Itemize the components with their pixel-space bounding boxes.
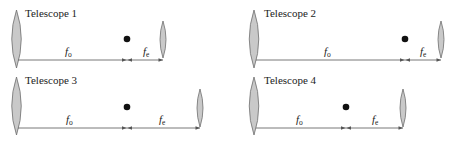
eyepiece-focal-length-label: fe xyxy=(420,45,427,59)
eyepiece-focal-length-label: fe xyxy=(372,113,379,127)
objective-focal-length-label: fo xyxy=(65,45,72,59)
axis-end-arrowhead-icon xyxy=(437,58,442,61)
objective-focal-arrowhead-icon xyxy=(122,58,127,61)
axis-end-arrowhead-icon xyxy=(399,126,404,129)
telescope-2-panel: Telescope 2 fo fe xyxy=(249,7,444,68)
objective-focal-length-label: fo xyxy=(296,113,303,127)
objective-focal-arrowhead-icon xyxy=(341,126,346,129)
eyepiece-focal-arrowhead-icon xyxy=(406,58,411,61)
eyepiece-focal-arrowhead-icon xyxy=(128,58,133,61)
eyepiece-focal-length-label: fe xyxy=(143,45,150,59)
telescope-1-panel: Telescope 1 fo fe xyxy=(12,7,166,68)
telescope-3-panel: Telescope 3 fo fe xyxy=(12,74,203,135)
telescope-3-title: Telescope 3 xyxy=(25,74,78,86)
objective-focal-length-label: fo xyxy=(324,45,331,59)
eyepiece-focal-arrowhead-icon xyxy=(128,126,133,129)
focal-point-icon xyxy=(124,104,131,111)
objective-lens-icon xyxy=(12,77,22,135)
objective-lens-icon xyxy=(249,10,259,68)
eyepiece-lens-icon xyxy=(160,21,166,58)
telescope-diagram: Telescope 1 fo fe Telescope 2 fo fe Tele… xyxy=(0,0,450,143)
focal-point-icon xyxy=(402,36,409,43)
telescope-2-title: Telescope 2 xyxy=(264,7,316,19)
eyepiece-lens-icon xyxy=(197,89,203,127)
focal-point-icon xyxy=(124,36,131,43)
objective-focal-arrowhead-icon xyxy=(122,126,127,129)
eyepiece-focal-arrowhead-icon xyxy=(347,126,352,129)
objective-focal-arrowhead-icon xyxy=(400,58,405,61)
focal-point-icon xyxy=(343,104,350,111)
eyepiece-lens-icon xyxy=(438,21,444,58)
axis-end-arrowhead-icon xyxy=(196,126,201,129)
objective-lens-icon xyxy=(249,77,259,135)
telescope-4-title: Telescope 4 xyxy=(264,74,317,86)
objective-focal-length-label: fo xyxy=(66,113,73,127)
telescope-4-panel: Telescope 4 fo fe xyxy=(249,74,406,135)
axis-end-arrowhead-icon xyxy=(159,58,164,61)
eyepiece-lens-icon xyxy=(400,89,406,127)
objective-lens-icon xyxy=(12,10,22,68)
telescope-1-title: Telescope 1 xyxy=(25,7,77,19)
eyepiece-focal-length-label: fe xyxy=(159,113,166,127)
